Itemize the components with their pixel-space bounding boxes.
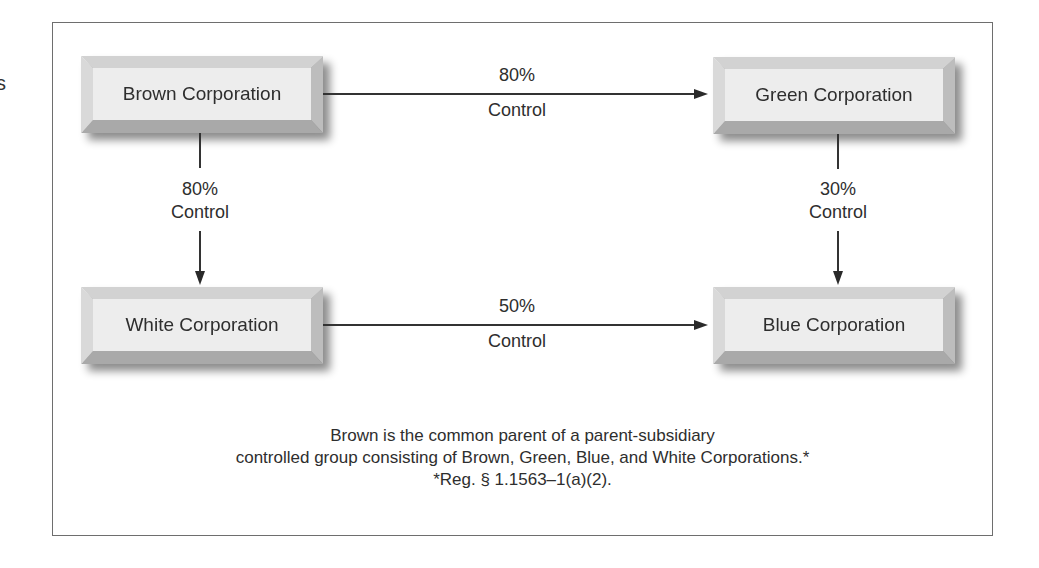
- node-blue-corporation: Blue Corporation: [713, 287, 955, 364]
- edge-line-brown-white-lower: [199, 231, 201, 273]
- edge-type-brown-green: Control: [488, 99, 546, 121]
- edge-percent-brown-green: 80%: [499, 64, 535, 86]
- cropped-text-fragment: s: [0, 72, 6, 95]
- caption-line-1: Brown is the common parent of a parent-s…: [52, 425, 993, 447]
- arrowhead-down-icon: [833, 271, 843, 285]
- edge-type-brown-white: Control: [171, 201, 229, 223]
- caption-line-2: controlled group consisting of Brown, Gr…: [52, 447, 993, 469]
- edge-line-white-blue: [323, 324, 695, 326]
- edge-line-brown-white-upper: [199, 133, 201, 168]
- edge-percent-brown-white: 80%: [182, 178, 218, 200]
- edge-percent-white-blue: 50%: [499, 295, 535, 317]
- edge-percent-green-blue: 30%: [820, 178, 856, 200]
- arrowhead-right-icon: [694, 320, 708, 330]
- node-label: Brown Corporation: [93, 68, 311, 120]
- node-label: Blue Corporation: [725, 299, 943, 351]
- caption-footnote: *Reg. § 1.1563–1(a)(2).: [52, 469, 993, 491]
- node-white-corporation: White Corporation: [81, 287, 323, 364]
- node-green-corporation: Green Corporation: [713, 57, 955, 134]
- edge-line-green-blue-upper: [837, 134, 839, 169]
- diagram-caption: Brown is the common parent of a parent-s…: [52, 425, 993, 491]
- arrowhead-right-icon: [694, 89, 708, 99]
- node-label: Green Corporation: [725, 69, 943, 121]
- edge-type-green-blue: Control: [809, 201, 867, 223]
- node-brown-corporation: Brown Corporation: [81, 56, 323, 133]
- edge-type-white-blue: Control: [488, 330, 546, 352]
- edge-line-green-blue-lower: [837, 231, 839, 273]
- arrowhead-down-icon: [195, 271, 205, 285]
- edge-line-brown-green: [323, 93, 695, 95]
- node-label: White Corporation: [93, 299, 311, 351]
